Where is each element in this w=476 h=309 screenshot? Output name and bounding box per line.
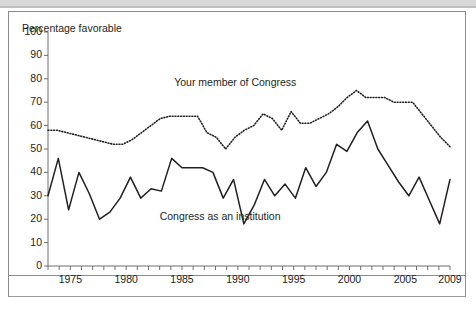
y-tick-label: 60 (16, 119, 42, 131)
frame-right-edge (465, 11, 466, 297)
frame-left-edge (8, 11, 9, 297)
x-tick-label: 2009 (430, 273, 470, 285)
y-tick-label: 100 (16, 25, 42, 37)
top-decoration-rule (0, 6, 476, 8)
chart-frame (8, 11, 466, 276)
y-tick-label: 70 (16, 95, 42, 107)
y-tick-label: 50 (16, 142, 42, 154)
x-tick-label: 1980 (106, 273, 146, 285)
y-tick-label: 0 (16, 259, 42, 271)
x-tick-label: 2000 (330, 273, 370, 285)
y-tick-label: 20 (16, 212, 42, 224)
series-label-member: Your member of Congress (174, 76, 296, 88)
x-tick-label: 2005 (385, 273, 425, 285)
x-tick-label: 1985 (162, 273, 202, 285)
x-tick-label: 1975 (50, 273, 90, 285)
y-tick-label: 80 (16, 72, 42, 84)
y-tick-label: 90 (16, 48, 42, 60)
y-tick-label: 10 (16, 236, 42, 248)
y-tick-label: 40 (16, 165, 42, 177)
x-tick-label: 1995 (274, 273, 314, 285)
series-label-institution: Congress as an institution (160, 210, 281, 222)
bottom-rule (9, 296, 465, 297)
x-tick-label: 1990 (218, 273, 258, 285)
y-tick-label: 30 (16, 189, 42, 201)
